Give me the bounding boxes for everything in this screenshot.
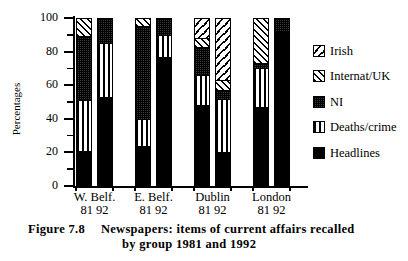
legend-item: Headlines — [313, 140, 408, 166]
bar-segment-headlines — [254, 107, 268, 186]
stacked-bar — [194, 18, 210, 186]
stacked-bar — [97, 18, 113, 186]
bar-segment-headlines — [77, 151, 91, 186]
stacked-bar — [135, 18, 151, 186]
bar-segment-ni — [77, 36, 91, 100]
stacked-bar — [253, 18, 269, 186]
y-tick-minor — [67, 135, 74, 137]
y-tick-major — [64, 151, 74, 153]
legend-item: Deaths/crime — [313, 115, 408, 141]
legend-item: Irish — [313, 38, 408, 64]
bar-segment-ni — [216, 90, 230, 98]
y-tick-minor — [67, 168, 74, 170]
bar-segment-deaths — [157, 35, 171, 57]
legend-label: Deaths/crime — [330, 121, 397, 134]
y-tick-label: 80 — [32, 45, 58, 57]
stacked-bar — [156, 18, 172, 186]
bar-segment-deaths — [216, 99, 230, 153]
legend-label: NI — [330, 96, 343, 109]
legend-swatch-ni-icon — [313, 96, 325, 108]
bar-segment-deaths — [77, 100, 91, 150]
y-axis-title: Percentages — [10, 49, 22, 169]
y-tick-minor — [67, 101, 74, 103]
caption-text-line-1: Newspapers: items of current affairs rec… — [101, 222, 355, 236]
bar-segment-headlines — [157, 57, 171, 186]
y-tick-label: 60 — [32, 78, 58, 90]
figure-number: Figure 7.8 — [28, 222, 85, 236]
legend-item: Internat/UK — [313, 64, 408, 90]
figure-container: Percentages 020406080100 W. Belf.81 92E.… — [0, 0, 408, 261]
legend-swatch-headlines-icon — [313, 147, 325, 159]
legend-swatch-irish-icon — [313, 45, 325, 57]
bar-segment-ni — [136, 26, 150, 118]
legend-swatch-deaths-icon — [313, 121, 325, 133]
bar-segment-internat — [136, 18, 150, 26]
bar-segment-internat — [195, 38, 209, 46]
bar-segment-internat — [216, 80, 230, 90]
chart-legend: IrishInternat/UKNIDeaths/crimeHeadlines — [313, 38, 408, 166]
bar-segment-ni — [275, 18, 289, 31]
y-tick-label: 20 — [32, 145, 58, 157]
x-group-years: 81 92 — [232, 204, 312, 217]
bar-segment-headlines — [195, 105, 209, 186]
bar-segment-internat — [77, 18, 91, 36]
y-tick-major — [64, 185, 74, 187]
x-axis-line — [73, 186, 308, 188]
bar-segment-headlines — [275, 31, 289, 186]
bar-segment-irish — [216, 18, 230, 80]
bar-segment-irish — [195, 18, 209, 38]
y-tick-minor — [67, 34, 74, 36]
legend-label: Headlines — [330, 147, 380, 160]
bar-segment-ni — [157, 18, 171, 35]
stacked-bar — [215, 18, 231, 186]
bar-segment-headlines — [216, 152, 230, 186]
y-tick-major — [64, 17, 74, 19]
y-tick-label: 100 — [32, 11, 58, 23]
bar-segment-ni — [98, 18, 112, 43]
y-tick-minor — [67, 68, 74, 70]
bar-segment-headlines — [98, 97, 112, 186]
plot-area — [74, 18, 302, 186]
legend-item: NI — [313, 89, 408, 115]
bar-segment-ni — [195, 47, 209, 76]
y-tick-label: 0 — [32, 179, 58, 191]
stacked-bar — [76, 18, 92, 186]
y-tick-major — [64, 51, 74, 53]
legend-label: Internat/UK — [330, 70, 390, 83]
stacked-bar — [274, 18, 290, 186]
bar-segment-deaths — [195, 75, 209, 105]
bar-segment-headlines — [136, 146, 150, 186]
caption-text-line-2: by group 1981 and 1992 — [0, 237, 408, 253]
y-tick-label: 40 — [32, 112, 58, 124]
caption-line-1: Figure 7.8Newspapers: items of current a… — [0, 222, 408, 238]
y-tick-major — [64, 84, 74, 86]
legend-label: Irish — [330, 45, 353, 58]
bar-segment-deaths — [98, 43, 112, 97]
bar-segment-internat — [254, 18, 268, 63]
bar-segment-deaths — [136, 119, 150, 146]
y-tick-major — [64, 118, 74, 120]
bar-segment-deaths — [254, 68, 268, 107]
legend-swatch-internat-icon — [313, 70, 325, 82]
